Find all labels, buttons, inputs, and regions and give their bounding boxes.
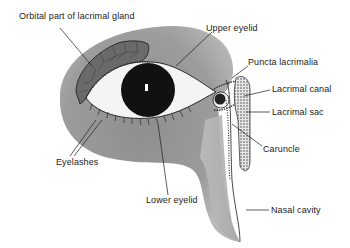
lacrimal-sac	[234, 77, 250, 171]
label-lacrimal-canal: Lacrimal canal	[272, 85, 331, 94]
label-puncta-lacrimalia: Puncta lacrimalia	[248, 58, 318, 67]
label-lacrimal-sac: Lacrimal sac	[272, 108, 324, 117]
label-nasal-cavity: Nasal cavity	[271, 206, 321, 215]
label-lower-eyelid: Lower eyelid	[146, 196, 198, 205]
label-caruncle: Caruncle	[263, 145, 300, 154]
label-orbital-part-lacrimal-gland: Orbital part of lacrimal gland	[19, 12, 135, 21]
label-eyelashes: Eyelashes	[56, 158, 98, 167]
pupil-highlight	[145, 84, 148, 91]
label-upper-eyelid: Upper eyelid	[206, 24, 258, 33]
